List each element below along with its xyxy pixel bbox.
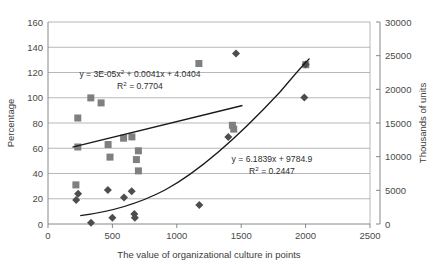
left-tick-label: 80	[32, 118, 43, 129]
left-tick-label: 160	[27, 17, 43, 28]
x-tick-label: 1500	[231, 230, 252, 241]
poly-eq-main: y = 3E-05x	[79, 69, 121, 79]
data-point-square	[107, 154, 114, 161]
data-point-square	[72, 181, 79, 188]
poly-eq-rest: + 0.0041x + 4.0404	[124, 69, 201, 79]
left-tick-label: 60	[32, 143, 43, 154]
x-tick-label: 1000	[166, 230, 187, 241]
right-tick-label: 25000	[385, 50, 411, 61]
right-tick-label: 30000	[385, 17, 411, 28]
left-axis-tick-labels: 160 140 120 100 80 60 40 20 0	[27, 17, 43, 230]
bottom-axis-ticks	[48, 224, 370, 228]
left-tick-label: 0	[38, 219, 43, 230]
y-axis-right-title: Thousands of units	[417, 83, 428, 164]
right-axis-tick-labels: 30000 25000 20000 15000 10000 5000 0	[385, 17, 411, 230]
left-tick-label: 20	[32, 193, 43, 204]
right-tick-label: 15000	[385, 118, 411, 129]
left-tick-label: 140	[27, 42, 43, 53]
left-tick-label: 100	[27, 92, 43, 103]
data-point-square	[133, 156, 140, 163]
x-tick-label: 500	[104, 230, 120, 241]
bottom-axis-tick-labels: 0 500 1000 1500 2000 2500	[45, 230, 380, 241]
chart-canvas: 160 140 120 100 80 60 40 20 0 30000 2500…	[0, 0, 438, 264]
data-point-square	[195, 60, 202, 67]
left-tick-label: 120	[27, 67, 43, 78]
right-tick-label: 10000	[385, 151, 411, 162]
data-point-square	[98, 99, 105, 106]
right-axis-ticks	[376, 22, 380, 224]
y-axis-left-title: Percentage	[5, 99, 16, 148]
right-tick-label: 5000	[385, 185, 406, 196]
x-tick-label: 0	[45, 230, 50, 241]
data-point-square	[135, 147, 142, 154]
right-tick-label: 0	[385, 219, 390, 230]
data-point-square	[87, 94, 94, 101]
data-point-square	[230, 126, 237, 133]
x-tick-label: 2500	[359, 230, 380, 241]
x-tick-label: 2000	[295, 230, 316, 241]
data-point-square	[105, 141, 112, 148]
linear-equation-line1: y = 6.1839x + 9784.9	[232, 154, 313, 164]
data-point-square	[74, 115, 81, 122]
right-tick-label: 20000	[385, 84, 411, 95]
data-point-square	[135, 167, 142, 174]
scatter-chart: 160 140 120 100 80 60 40 20 0 30000 2500…	[0, 0, 438, 264]
data-point-square	[128, 133, 135, 140]
linear-r2-value: = 0.2447	[259, 166, 295, 176]
left-tick-label: 40	[32, 168, 43, 179]
poly-equation-line1: y = 3E-05x2 + 0.0041x + 4.0404	[79, 68, 200, 79]
x-axis-title: The value of organizational culture in p…	[117, 249, 301, 260]
poly-r2-value: = 0.7704	[127, 81, 163, 91]
